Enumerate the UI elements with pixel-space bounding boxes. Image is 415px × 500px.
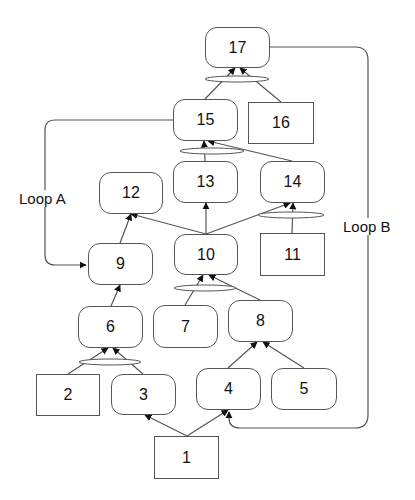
- node-2: 2: [36, 374, 100, 416]
- node-5: 5: [271, 368, 337, 410]
- node-12: 12: [99, 172, 163, 214]
- node-label: 6: [106, 318, 115, 336]
- edge-16-to-17: [240, 68, 281, 102]
- node-label: 8: [256, 312, 265, 330]
- node-label: 2: [64, 386, 73, 404]
- node-16: 16: [248, 102, 314, 144]
- node-14: 14: [260, 161, 325, 203]
- node-9: 9: [88, 243, 153, 285]
- node-label: 12: [122, 184, 140, 202]
- node-15: 15: [173, 99, 238, 141]
- node-label: 5: [300, 380, 309, 398]
- node-label: 14: [284, 173, 302, 191]
- node-label: 15: [197, 111, 215, 129]
- node-4: 4: [196, 368, 261, 410]
- edge-1-to-3: [145, 415, 187, 436]
- node-3: 3: [111, 374, 176, 415]
- node-label: 9: [116, 255, 125, 273]
- node-8: 8: [228, 300, 293, 342]
- node-label: 1: [182, 449, 191, 467]
- edge-4-to-8: [228, 342, 257, 368]
- and-join-arc-a15: [180, 148, 244, 154]
- node-label: 10: [197, 246, 215, 264]
- node-6: 6: [78, 306, 143, 348]
- edge-10-to-12: [131, 214, 206, 234]
- node-label: 16: [272, 114, 290, 132]
- node-label: 7: [181, 318, 190, 336]
- and-join-arc-a6: [79, 359, 141, 365]
- node-label: 17: [229, 39, 247, 57]
- node-10: 10: [174, 234, 238, 275]
- and-join-arc-a17: [205, 76, 269, 82]
- edge-9-to-12: [120, 214, 131, 243]
- node-17: 17: [205, 27, 270, 68]
- node-13: 13: [173, 161, 238, 203]
- node-label: 3: [139, 386, 148, 404]
- loop-label-loopB: Loop B: [342, 218, 392, 235]
- edge-1-to-4: [187, 410, 228, 436]
- node-label: 11: [284, 246, 301, 264]
- edge-6-to-9: [111, 285, 120, 306]
- and-join-arc-a10: [174, 285, 236, 291]
- node-11: 11: [260, 233, 325, 276]
- node-label: 13: [197, 173, 215, 191]
- edge-5-to-8: [263, 342, 304, 368]
- node-label: 4: [224, 380, 233, 398]
- and-join-arc-a14: [258, 212, 324, 218]
- edge-15-to-17: [205, 68, 235, 99]
- diagram-canvas: 1234567891011121314151617 Loop ALoop B: [0, 0, 415, 500]
- node-7: 7: [153, 305, 218, 348]
- edge-10-to-14: [206, 203, 290, 234]
- node-1: 1: [154, 436, 219, 479]
- loop-label-loopA: Loop A: [18, 190, 67, 207]
